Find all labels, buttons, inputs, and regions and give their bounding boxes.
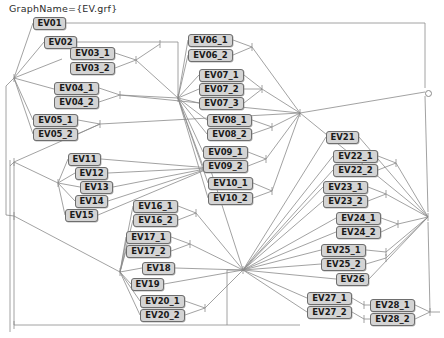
- graph-node-ev23_2[interactable]: EV23_2: [323, 195, 368, 208]
- graph-node-ev21[interactable]: EV21: [326, 131, 359, 144]
- graph-node-ev05_1[interactable]: EV05_1: [33, 114, 78, 127]
- graph-node-ev20_2[interactable]: EV20_2: [140, 309, 185, 322]
- graph-node-ev09_1[interactable]: EV09_1: [203, 146, 248, 159]
- graph-node-ev10_2[interactable]: EV10_2: [208, 192, 253, 205]
- graph-node-ev16_1[interactable]: EV16_1: [133, 200, 178, 213]
- graph-node-ev07_1[interactable]: EV07_1: [199, 69, 244, 82]
- graph-canvas: GraphName={EV.grf} EV01EV02EV03_1EV03_2E…: [0, 0, 444, 338]
- graph-node-ev15[interactable]: EV15: [65, 209, 98, 222]
- graph-node-ev26[interactable]: EV26: [336, 273, 369, 286]
- graph-node-ev11[interactable]: EV11: [68, 153, 101, 166]
- graph-node-ev04_2[interactable]: EV04_2: [54, 96, 99, 109]
- graph-node-ev22_1[interactable]: EV22_1: [333, 150, 378, 163]
- graph-node-ev17_1[interactable]: EV17_1: [126, 231, 171, 244]
- graph-node-ev20_1[interactable]: EV20_1: [140, 295, 185, 308]
- graph-node-ev28_1[interactable]: EV28_1: [370, 299, 415, 312]
- graph-node-ev25_2[interactable]: EV25_2: [321, 258, 366, 271]
- graph-node-ev17_2[interactable]: EV17_2: [126, 245, 171, 258]
- graph-node-ev06_1[interactable]: EV06_1: [188, 34, 233, 47]
- page-title: GraphName={EV.grf}: [9, 3, 117, 14]
- graph-node-ev06_2[interactable]: EV06_2: [188, 49, 233, 62]
- graph-node-ev03_1[interactable]: EV03_1: [70, 47, 115, 60]
- graph-node-ev08_2[interactable]: EV08_2: [207, 128, 252, 141]
- graph-node-ev24_2[interactable]: EV24_2: [336, 226, 381, 239]
- graph-node-ev03_2[interactable]: EV03_2: [70, 62, 115, 75]
- graph-node-ev22_2[interactable]: EV22_2: [333, 164, 378, 177]
- graph-node-ev07_2[interactable]: EV07_2: [199, 83, 244, 96]
- graph-node-ev07_3[interactable]: EV07_3: [199, 97, 244, 110]
- graph-node-ev19[interactable]: EV19: [131, 278, 164, 291]
- graph-node-ev27_1[interactable]: EV27_1: [307, 292, 352, 305]
- graph-node-ev14[interactable]: EV14: [75, 195, 108, 208]
- graph-node-ev28_2[interactable]: EV28_2: [370, 313, 415, 326]
- graph-node-ev08_1[interactable]: EV08_1: [207, 114, 252, 127]
- graph-node-ev01[interactable]: EV01: [33, 17, 66, 30]
- graph-node-ev23_1[interactable]: EV23_1: [323, 181, 368, 194]
- graph-node-ev13[interactable]: EV13: [80, 181, 113, 194]
- terminal-node[interactable]: [425, 90, 432, 97]
- graph-node-ev18[interactable]: EV18: [142, 262, 175, 275]
- graph-node-ev09_2[interactable]: EV09_2: [203, 160, 248, 173]
- graph-node-ev10_1[interactable]: EV10_1: [208, 177, 253, 190]
- graph-node-ev05_2[interactable]: EV05_2: [33, 128, 78, 141]
- graph-node-ev12[interactable]: EV12: [75, 167, 108, 180]
- graph-node-ev24_1[interactable]: EV24_1: [336, 212, 381, 225]
- graph-node-ev16_2[interactable]: EV16_2: [133, 214, 178, 227]
- graph-node-ev27_2[interactable]: EV27_2: [307, 306, 352, 319]
- graph-node-ev04_1[interactable]: EV04_1: [54, 82, 99, 95]
- graph-node-ev25_1[interactable]: EV25_1: [321, 244, 366, 257]
